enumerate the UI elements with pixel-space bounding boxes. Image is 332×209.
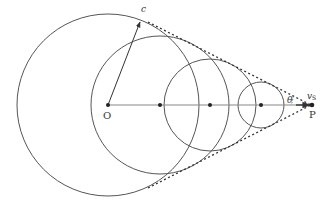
center-dot-3 — [208, 103, 212, 107]
label-origin: O — [103, 110, 111, 121]
center-dot-o — [106, 103, 110, 107]
label-velocity: vS — [307, 91, 316, 101]
label-angle-theta: θ — [287, 95, 293, 105]
cone-line-upper — [148, 22, 311, 105]
radius-arrow — [108, 22, 140, 105]
center-dot-4 — [259, 103, 263, 107]
label-wavefront-c: c — [141, 4, 146, 14]
cone-line-lower — [148, 105, 311, 188]
label-source-p: P — [309, 109, 316, 120]
center-dot-2 — [158, 103, 162, 107]
mach-cone-diagram: O c θ vS P — [0, 0, 332, 209]
source-dot-p — [310, 103, 315, 108]
